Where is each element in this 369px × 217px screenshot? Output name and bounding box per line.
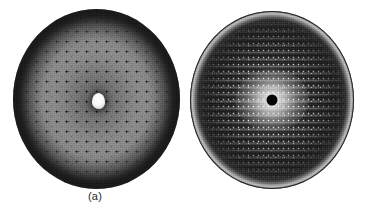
- plate-b-beamstop: [267, 95, 278, 106]
- panel-a: (a): [0, 0, 190, 217]
- plate-a-beamstop: [92, 93, 105, 109]
- diffraction-plate-a: [13, 9, 180, 189]
- figure-root: (a) (b): [0, 0, 369, 217]
- diffraction-plate-b: [190, 11, 354, 189]
- caption-panel-a: (a): [0, 190, 190, 202]
- panel-b: (b): [186, 0, 369, 217]
